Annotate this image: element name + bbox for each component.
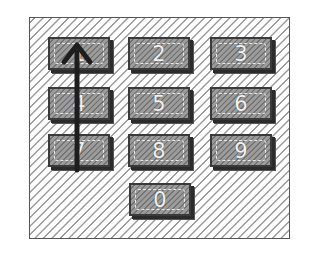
key-6[interactable]: 6: [210, 87, 272, 120]
key-8-label: 8: [130, 138, 188, 164]
key-9-label: 9: [212, 138, 270, 164]
key-3-label: 3: [212, 41, 270, 67]
key-5-label: 5: [130, 91, 188, 117]
key-2-label: 2: [130, 41, 188, 67]
key-0[interactable]: 0: [129, 183, 191, 216]
key-6-label: 6: [212, 91, 270, 117]
key-4-label: 4: [50, 91, 108, 117]
key-8[interactable]: 8: [128, 134, 190, 167]
key-9[interactable]: 9: [210, 134, 272, 167]
key-1-label: 1: [50, 41, 108, 67]
key-3[interactable]: 3: [210, 37, 272, 70]
key-5[interactable]: 5: [128, 87, 190, 120]
key-2[interactable]: 2: [128, 37, 190, 70]
key-7-label: 7: [50, 138, 108, 164]
key-4[interactable]: 4: [48, 87, 110, 120]
key-1[interactable]: 1: [48, 37, 110, 70]
key-0-label: 0: [131, 187, 189, 213]
key-7[interactable]: 7: [48, 134, 110, 167]
